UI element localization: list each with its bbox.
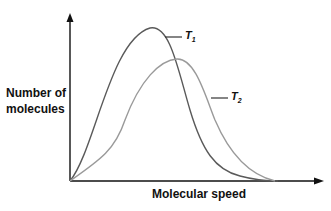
- t1-label: T1: [185, 29, 196, 43]
- x-axis-arrow-icon: [314, 178, 324, 185]
- y-axis-label: Number of molecules: [6, 85, 66, 117]
- t2-curve: [70, 59, 275, 181]
- y-axis-arrow-icon: [67, 13, 74, 22]
- t2-label: T2: [231, 90, 242, 104]
- x-axis-label: Molecular speed: [152, 187, 246, 201]
- y-axis-label-line2: molecules: [6, 101, 66, 117]
- y-axis-label-line1: Number of: [6, 85, 66, 101]
